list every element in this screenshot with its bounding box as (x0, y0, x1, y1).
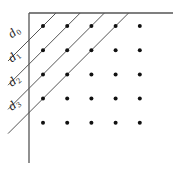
grid-dot (114, 97, 118, 101)
grid-dot (89, 48, 93, 52)
grid-dot (138, 121, 142, 125)
grid-dot (41, 24, 45, 28)
diagonal-label-d1: d1 (6, 48, 24, 66)
grid-dot (41, 48, 45, 52)
grid-dot (65, 121, 69, 125)
grid-dot (114, 24, 118, 28)
grid-dot (89, 24, 93, 28)
grid-dot (114, 121, 118, 125)
diagram-canvas: d0d1d2d3 (0, 0, 174, 172)
grid-dot (89, 72, 93, 76)
grid-dot (114, 72, 118, 76)
grid-dot (65, 72, 69, 76)
diagonal-label-d3: d3 (6, 96, 24, 114)
grid-dot (138, 48, 142, 52)
grid-dot (138, 97, 142, 101)
diagonal-labels: d0d1d2d3 (6, 23, 24, 114)
diagram-svg: d0d1d2d3 (0, 0, 174, 172)
diagonal-line-d2 (8, 13, 104, 109)
grid-dot (138, 72, 142, 76)
grid-dot (65, 48, 69, 52)
diagonal-label-d2: d2 (6, 72, 24, 90)
grid-dot (41, 121, 45, 125)
grid-dot (41, 97, 45, 101)
grid-dot (65, 97, 69, 101)
grid-dot (89, 121, 93, 125)
grid-dot (41, 72, 45, 76)
diagonal-label-d0: d0 (6, 23, 24, 41)
grid-dot (65, 24, 69, 28)
dot-grid (41, 24, 142, 125)
grid-dot (138, 24, 142, 28)
grid-dot (114, 48, 118, 52)
grid-dot (89, 97, 93, 101)
